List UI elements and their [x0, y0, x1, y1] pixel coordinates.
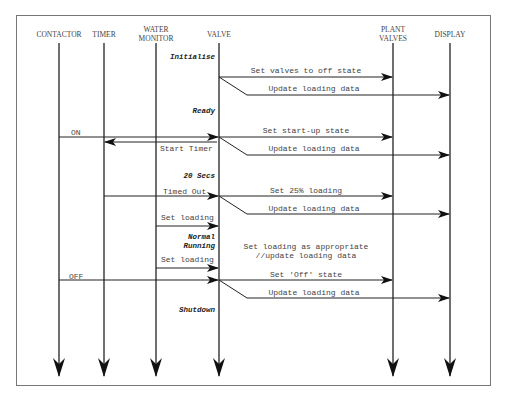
lifeline-header-valve: VALVE: [207, 30, 231, 39]
message-label: ON: [71, 128, 81, 137]
message-label: Set 25% loading: [270, 186, 342, 195]
diagram-lines: [0, 0, 505, 399]
note-line: Set loading as appropriate: [244, 242, 369, 251]
message-label: Set loading: [161, 213, 214, 222]
lifeline-header-water-monitor: WATER MONITOR: [139, 25, 174, 43]
message-label: Set loading: [161, 255, 214, 264]
header-line: PLANT: [379, 25, 407, 34]
state-initialise: Initialise: [170, 53, 215, 62]
lifeline-header-display: DISPLAY: [435, 30, 466, 39]
state-ready: Ready: [192, 107, 215, 116]
message-label: Set valves to off state: [251, 66, 361, 75]
message-label: Start Timer: [160, 144, 213, 153]
message-label: Update loading data: [268, 84, 359, 93]
message-label: Update loading data: [268, 144, 359, 153]
header-line: MONITOR: [139, 34, 174, 43]
message-label: Update loading data: [268, 288, 359, 297]
header-line: VALVES: [379, 34, 407, 43]
note-line: //update loading data: [244, 251, 369, 260]
state-normal-running: Normal Running: [183, 233, 215, 251]
message-label: Set 'Off' state: [270, 270, 342, 279]
note-normal-running: Set loading as appropriate //update load…: [244, 242, 369, 260]
message-label: Set start-up state: [263, 126, 349, 135]
message-label: Update loading data: [268, 204, 359, 213]
state-shutdown: Shutdown: [179, 306, 215, 315]
state-line: Normal: [183, 233, 215, 242]
state-line: Running: [183, 242, 215, 251]
message-label: OFF: [69, 272, 83, 281]
lifeline-header-plant-valves: PLANT VALVES: [379, 25, 407, 43]
lifeline-header-contactor: CONTACTOR: [36, 30, 81, 39]
lifeline-header-timer: TIMER: [92, 30, 115, 39]
header-line: WATER: [139, 25, 174, 34]
message-label: Timed Out: [163, 187, 206, 196]
state-20-secs: 20 Secs: [183, 172, 215, 181]
